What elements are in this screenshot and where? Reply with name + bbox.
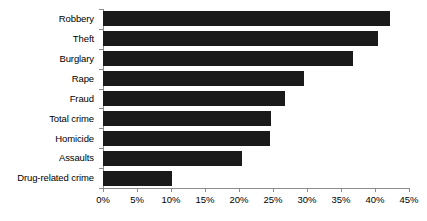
value-tick (205, 188, 206, 192)
category-label: Robbery (0, 9, 99, 29)
value-tick-label: 35% (331, 195, 350, 205)
bar-row (103, 108, 409, 128)
value-tick (409, 188, 410, 192)
value-tick-label: 5% (130, 195, 144, 205)
bar-row (103, 128, 409, 148)
bar-row (103, 29, 409, 49)
value-tick (273, 188, 274, 192)
value-tick-label: 15% (195, 195, 214, 205)
category-axis: Robbery Theft Burglary Rape Fraud Total … (0, 9, 99, 188)
value-axis-line (103, 188, 409, 189)
bar (103, 171, 172, 186)
value-tick-label: 30% (297, 195, 316, 205)
bar-row (103, 9, 409, 29)
category-label: Rape (0, 69, 99, 89)
category-label: Theft (0, 29, 99, 49)
bar (103, 71, 304, 86)
bar (103, 51, 353, 66)
value-tick (375, 188, 376, 192)
value-tick (103, 188, 104, 192)
value-tick-label: 0% (96, 195, 110, 205)
category-label: Fraud (0, 89, 99, 109)
bar (103, 151, 242, 166)
bar-series (103, 9, 409, 188)
bar-row (103, 168, 409, 188)
bar (103, 31, 378, 46)
bar (103, 111, 271, 126)
plot-area (103, 9, 409, 188)
value-tick (307, 188, 308, 192)
category-label: Assaults (0, 148, 99, 168)
bar (103, 131, 270, 146)
value-tick (341, 188, 342, 192)
value-tick-label: 45% (399, 195, 418, 205)
bar (103, 91, 285, 106)
bar (103, 11, 390, 26)
bar-row (103, 148, 409, 168)
category-label: Homicide (0, 128, 99, 148)
category-label: Total crime (0, 108, 99, 128)
value-tick-label: 10% (161, 195, 180, 205)
value-tick (171, 188, 172, 192)
value-tick (137, 188, 138, 192)
category-label: Burglary (0, 49, 99, 69)
bar-row (103, 69, 409, 89)
bar-row (103, 89, 409, 109)
category-label: Drug-related crime (0, 168, 99, 188)
value-tick (239, 188, 240, 192)
value-tick-label: 20% (229, 195, 248, 205)
bar-row (103, 49, 409, 69)
value-tick-label: 25% (263, 195, 282, 205)
value-tick-label: 40% (365, 195, 384, 205)
bar-chart: Robbery Theft Burglary Rape Fraud Total … (0, 0, 427, 221)
